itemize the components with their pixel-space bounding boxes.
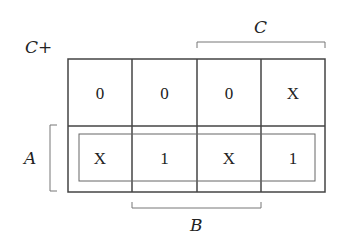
- kmap-grid: [68, 59, 325, 192]
- cell-r1-c3: 1: [261, 150, 325, 167]
- cell-r0-c3: X: [261, 85, 325, 102]
- bracket-b: [132, 202, 261, 208]
- cell-r1-c0: X: [68, 150, 132, 167]
- label-b: B: [190, 217, 203, 234]
- kmap-lines: [0, 0, 346, 250]
- cell-r0-c2: 0: [197, 85, 261, 102]
- cell-r1-c1: 1: [132, 150, 197, 167]
- cell-r1-c2: X: [197, 150, 261, 167]
- label-a: A: [24, 150, 36, 167]
- bracket-c: [197, 42, 325, 48]
- cell-r0-c1: 0: [132, 85, 197, 102]
- bracket-a: [50, 125, 57, 191]
- cell-r0-c0: 0: [68, 85, 132, 102]
